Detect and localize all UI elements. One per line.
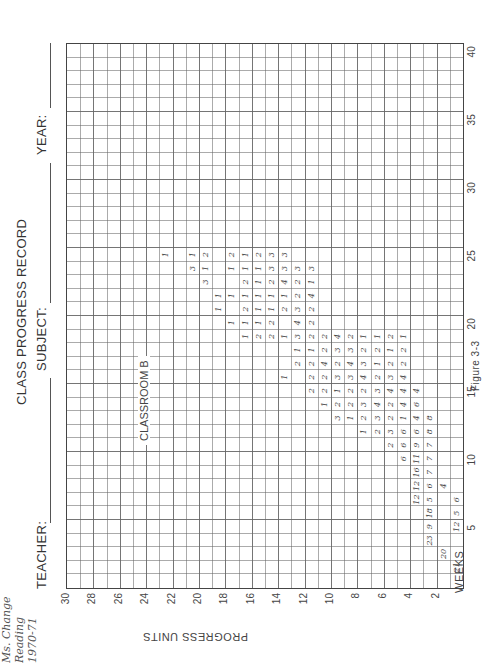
data-cell: 2 [199, 248, 212, 262]
data-cell: 4 [371, 398, 384, 412]
data-cell: 1 [239, 316, 252, 330]
grid-line-horizontal [384, 44, 385, 588]
data-cell: 2 [265, 275, 278, 289]
data-cell: 6 [423, 479, 436, 493]
grid-line-horizontal [80, 44, 81, 588]
data-cell: 1 [331, 384, 344, 398]
data-cell: 3 [384, 425, 397, 439]
data-cell: 1 [278, 370, 291, 384]
data-cell: 3 [278, 248, 291, 262]
data-cell: 6 [410, 425, 423, 439]
grid-line-horizontal [120, 44, 121, 588]
grid-line-horizontal [371, 44, 372, 588]
grid-line-horizontal [186, 44, 187, 588]
data-cell: 2 [318, 384, 331, 398]
data-cell: 2 [331, 357, 344, 371]
data-cell: 2 [357, 343, 370, 357]
data-cell: 1 [199, 262, 212, 276]
y-tick-label: 28 [86, 593, 97, 613]
data-cell: 3 [278, 262, 291, 276]
data-cell: 5 [450, 506, 463, 520]
data-cell: 4 [344, 357, 357, 371]
data-cell: 3 [344, 370, 357, 384]
data-cell: 4 [410, 411, 423, 425]
grid-line-horizontal [173, 44, 174, 588]
data-cell: 2 [384, 411, 397, 425]
data-cell: 2 [357, 384, 370, 398]
data-cell: 2 [291, 275, 304, 289]
data-cell: 3 [199, 275, 212, 289]
data-cell: 1 [225, 262, 238, 276]
grid-line-horizontal [107, 44, 108, 588]
data-cell: 2 [252, 330, 265, 344]
data-cell: 1 [225, 316, 238, 330]
data-cell: 18 [423, 506, 436, 520]
x-axis-title: WEEKS [453, 551, 465, 593]
data-cell: 2 [344, 384, 357, 398]
data-cell: 1 [384, 343, 397, 357]
data-cell: 8 [423, 411, 436, 425]
data-cell: 3 [357, 357, 370, 371]
y-tick-label: 2 [430, 593, 441, 613]
data-cell: 1 [212, 302, 225, 316]
data-cell: 2 [305, 384, 318, 398]
data-cell: 3 [265, 248, 278, 262]
grid-line-horizontal [357, 44, 358, 588]
data-cell: 2 [318, 370, 331, 384]
grid-line-horizontal [437, 44, 438, 588]
data-cell: 2 [305, 357, 318, 371]
chart-title: CLASS PROGRESS RECORD [14, 219, 29, 405]
data-cell: 4 [397, 370, 410, 384]
data-cell: 3 [291, 330, 304, 344]
teacher-line [50, 378, 51, 523]
data-cell: 1 [278, 289, 291, 303]
data-cell: 7 [423, 466, 436, 480]
data-cell: 3 [371, 411, 384, 425]
y-tick-label: 20 [192, 593, 203, 613]
data-cell: 3 [357, 398, 370, 412]
data-cell: 6 [397, 425, 410, 439]
data-cell: 1 [239, 248, 252, 262]
subject-line [50, 163, 51, 303]
grid-line-horizontal [159, 44, 160, 588]
data-cell: 4 [397, 384, 410, 398]
data-cell: 12 [450, 520, 463, 534]
data-cell: 1 [225, 289, 238, 303]
data-cell: 1 [252, 302, 265, 316]
grid-line-horizontal [133, 44, 134, 588]
data-cell: 7 [423, 452, 436, 466]
data-cell: 2 [384, 330, 397, 344]
y-tick-label: 18 [218, 593, 229, 613]
year-line [50, 43, 51, 108]
data-cell: 6 [450, 493, 463, 507]
data-cell: 8 [423, 425, 436, 439]
data-cell: 1 [397, 411, 410, 425]
data-cell: 4 [384, 384, 397, 398]
data-cell: 4 [397, 398, 410, 412]
data-cell: 2 [305, 330, 318, 344]
data-cell: 2 [384, 438, 397, 452]
data-cell: 2 [291, 289, 304, 303]
y-tick-label: 8 [350, 593, 361, 613]
data-cell: 12 [410, 493, 423, 507]
data-cell: 5 [423, 493, 436, 507]
data-cell: 3 [186, 262, 199, 276]
data-cell: 1 [305, 343, 318, 357]
data-cell: 3 [331, 370, 344, 384]
grid-line-horizontal [331, 44, 332, 588]
data-cell: 2 [239, 302, 252, 316]
data-cell: 1 [291, 343, 304, 357]
data-cell: 2 [305, 302, 318, 316]
data-cell: 6 [397, 452, 410, 466]
data-cell: 6 [397, 438, 410, 452]
data-cell: 3 [344, 343, 357, 357]
y-tick-label: 24 [139, 593, 150, 613]
data-cell: 2 [278, 302, 291, 316]
data-cell: 3 [265, 262, 278, 276]
data-cell: 2 [344, 330, 357, 344]
grid-line-horizontal [199, 44, 200, 588]
subject-label: SUBJECT: [34, 307, 49, 371]
data-cell: 1 [357, 425, 370, 439]
classroom-annotation: CLASSROOM B [138, 356, 150, 445]
data-cell: 1 [357, 330, 370, 344]
